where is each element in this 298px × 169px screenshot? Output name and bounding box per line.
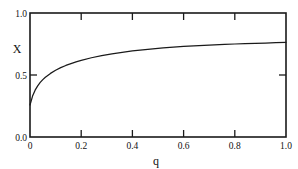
y-axis-title: X [13,42,22,56]
y-tick-label-0.0: 0.0 [15,133,27,143]
x-tick-label-0.4: 0.4 [126,141,138,151]
plot-frame [30,13,286,137]
x-tick-label-1.0: 1.0 [280,141,292,151]
x-tick-label-0: 0 [28,141,33,151]
x-tick-label-0.6: 0.6 [178,141,190,151]
data-curve-series-0 [30,42,286,105]
x-tick-label-0.2: 0.2 [75,141,87,151]
y-tick-label-0.5: 0.5 [15,71,27,81]
x-axis-title: q [153,154,159,168]
y-tick-label-1.0: 1.0 [15,9,27,19]
x-tick-label-0.8: 0.8 [229,141,241,151]
chart-canvas: 1.0 0.5 0.0 0 0.2 0.4 0.6 0.8 1.0 X q [0,0,298,169]
figure-container: 1.0 0.5 0.0 0 0.2 0.4 0.6 0.8 1.0 X q [0,0,298,169]
x-axis-bottom-ticks [81,130,235,137]
x-axis-top-ticks [81,13,235,20]
